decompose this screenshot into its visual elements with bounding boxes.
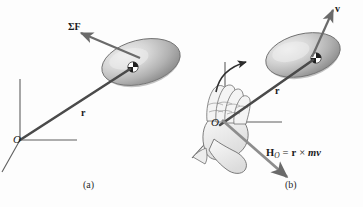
eq-term-r: r xyxy=(292,147,297,158)
label-r-vector-a: r xyxy=(81,108,85,118)
eq-subscript-O: O xyxy=(274,151,279,160)
disk-b xyxy=(261,25,345,86)
label-r-vector-b: r xyxy=(275,86,279,96)
right-hand-illustration xyxy=(193,85,250,173)
eq-cross-product: × xyxy=(299,147,305,158)
disk-a xyxy=(97,31,186,95)
label-origin-a: O xyxy=(13,134,21,145)
label-origin-b: O xyxy=(211,117,219,128)
caption-panel-a: (a) xyxy=(83,180,94,190)
equation-angular-momentum: HO=r×mv xyxy=(266,148,321,159)
label-v-vector: v xyxy=(335,4,340,14)
caption-panel-b: (b) xyxy=(285,180,297,190)
physics-figure: ΣF r O (a) v r O HO=r×mv (b) xyxy=(0,0,363,207)
hand-wrist xyxy=(193,148,207,164)
eq-term-mv: mv xyxy=(308,147,321,158)
eq-symbol-H: H xyxy=(266,147,274,158)
figure-canvas xyxy=(0,0,363,207)
axes-a xyxy=(2,79,77,172)
label-sum-forces: ΣF xyxy=(68,22,81,32)
panel-a-graphics xyxy=(2,31,186,172)
eq-equals: = xyxy=(283,147,289,158)
r-vector-a xyxy=(20,69,130,140)
